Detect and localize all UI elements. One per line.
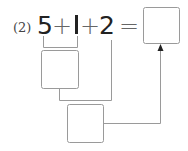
plus-operator-2: + (80, 12, 100, 40)
partial-sum-box-1[interactable] (42, 51, 79, 89)
connector-box2-to-answer (104, 50, 161, 124)
term-5: 5 (37, 11, 53, 40)
equals-operator: = (119, 12, 139, 40)
term-2: 2 (99, 11, 115, 40)
arrow-up-icon (158, 44, 164, 51)
partial-sum-box-2[interactable] (68, 105, 104, 143)
answer-box[interactable] (144, 8, 180, 44)
addition-diagram: (2) 5 + + 2 = (0, 0, 188, 151)
plus-operator-1: + (52, 12, 72, 40)
term-1 (75, 15, 78, 34)
problem-label: (2) (13, 20, 31, 35)
